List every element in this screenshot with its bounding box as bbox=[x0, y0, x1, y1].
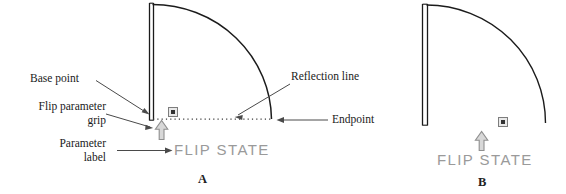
annotation-flip-parameter-grip-line2: grip bbox=[87, 114, 106, 126]
door-leaf-a bbox=[150, 3, 154, 121]
annotation-parameter-label-line2: label bbox=[84, 151, 106, 163]
annotation-flip-parameter-grip: Flip parameter grip bbox=[6, 99, 106, 127]
door-leaf-b bbox=[423, 4, 428, 126]
grip-square-a[interactable] bbox=[169, 108, 178, 117]
parameter-label-text-b[interactable]: FLIP STATE bbox=[437, 151, 533, 168]
figure-canvas: Base point Flip parameter grip Parameter… bbox=[0, 0, 566, 194]
annotation-reflection-line: Reflection line bbox=[291, 70, 359, 83]
annotation-parameter-label: Parameter label bbox=[18, 136, 106, 164]
panel-b-geometry bbox=[423, 4, 546, 151]
swing-arc-a bbox=[153, 4, 272, 119]
parameter-label-text-a[interactable]: FLIP STATE bbox=[174, 141, 270, 158]
panel-caption-b: B bbox=[478, 175, 486, 190]
annotation-flip-parameter-grip-line1: Flip parameter bbox=[39, 100, 106, 112]
leader-endpoint bbox=[277, 117, 329, 123]
panel-caption-a: A bbox=[198, 172, 207, 187]
annotation-endpoint: Endpoint bbox=[332, 113, 374, 126]
swing-arc-b bbox=[427, 5, 546, 123]
leader-reflection-line bbox=[235, 84, 290, 120]
leader-flip-grip bbox=[106, 114, 153, 130]
grip-square-b[interactable] bbox=[499, 118, 508, 127]
leader-parameter-label bbox=[117, 148, 173, 154]
annotation-parameter-label-line1: Parameter bbox=[59, 137, 106, 149]
flip-grip-arrow-a[interactable] bbox=[155, 120, 167, 139]
flip-grip-arrow-b[interactable] bbox=[475, 131, 487, 150]
annotation-base-point: Base point bbox=[30, 72, 79, 85]
